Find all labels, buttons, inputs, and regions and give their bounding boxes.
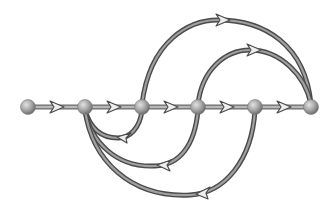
node-5 (248, 100, 263, 115)
arrow-icon-e32 (117, 133, 131, 143)
signal-flow-graph (0, 0, 333, 210)
node-1 (21, 100, 36, 115)
node-4 (191, 100, 206, 115)
node-3 (135, 100, 150, 115)
node-2 (78, 100, 93, 115)
node-6 (304, 100, 319, 115)
